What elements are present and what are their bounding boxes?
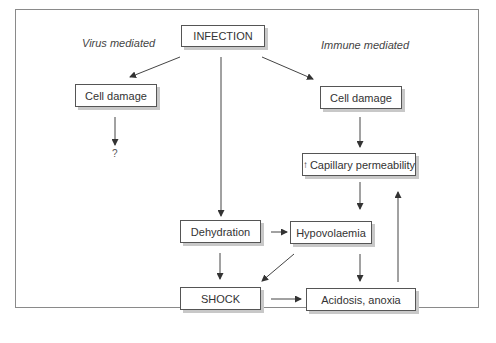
acidosis-anoxia-node: Acidosis, anoxia	[306, 288, 416, 311]
acidosis-anoxia-label: Acidosis, anoxia	[321, 294, 401, 306]
dehydration-node: Dehydration	[180, 220, 261, 243]
capillary-permeability-node: ↑ Capillary permeability	[302, 153, 416, 176]
cell-damage-immune-label: Cell damage	[330, 92, 392, 104]
infection-label: INFECTION	[193, 30, 252, 42]
capillary-permeability-label: Capillary permeability	[310, 159, 415, 171]
unknown-outcome-label: ?	[112, 148, 118, 159]
cell-damage-virus-node: Cell damage	[75, 84, 157, 107]
hypovolaemia-node: Hypovolaemia	[290, 221, 372, 244]
dehydration-label: Dehydration	[191, 226, 250, 238]
infection-node: INFECTION	[181, 25, 265, 47]
cell-damage-immune-node: Cell damage	[320, 86, 402, 109]
cell-damage-virus-label: Cell damage	[85, 90, 147, 102]
immune-mediated-label: Immune mediated	[321, 39, 409, 51]
hypovolaemia-label: Hypovolaemia	[296, 227, 366, 239]
shock-node: SHOCK	[180, 287, 261, 310]
virus-mediated-label: Virus mediated	[82, 37, 155, 49]
shock-label: SHOCK	[201, 293, 240, 305]
increase-arrow-icon: ↑	[303, 159, 308, 170]
